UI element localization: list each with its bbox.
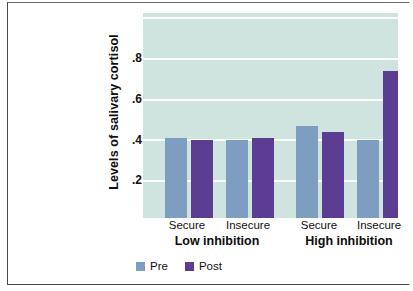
y-tick-label-06: .6: [122, 92, 142, 106]
chart-legend: Pre Post: [136, 258, 222, 274]
plot-area: [143, 13, 398, 218]
group-label-high-inhibition: High inhibition: [305, 234, 392, 248]
category-label-low-secure: Secure: [169, 219, 205, 231]
legend-label-pre: Pre: [150, 260, 168, 272]
bar-low-insecure-pre: [226, 140, 248, 218]
chart-figure: Levels of salivary cortisol .8 .6 .4 .2 …: [0, 0, 413, 291]
gridline-09: [143, 17, 398, 19]
legend-swatch-pre-icon: [136, 262, 145, 271]
category-label-high-secure: Secure: [301, 219, 337, 231]
bar-low-insecure-post: [252, 138, 274, 218]
y-tick-label-04: .4: [122, 133, 142, 147]
gridline-06: [143, 99, 398, 101]
bar-low-secure-post: [191, 140, 213, 218]
category-label-low-insecure: Insecure: [226, 219, 270, 231]
x-axis-category-labels: Secure Insecure Secure Insecure: [143, 219, 398, 235]
bar-low-secure-pre: [165, 138, 187, 218]
x-axis-group-labels: Low inhibition High inhibition: [143, 234, 405, 252]
bar-high-insecure-pre: [357, 140, 379, 218]
bar-high-insecure-post: [383, 71, 398, 218]
y-axis-tick-labels: .8 .6 .4 .2: [118, 0, 142, 291]
legend-item-post: Post: [185, 260, 222, 272]
bar-high-secure-pre: [296, 126, 318, 218]
gridline-08: [143, 58, 398, 60]
legend-label-post: Post: [199, 260, 222, 272]
group-label-low-inhibition: Low inhibition: [175, 234, 260, 248]
legend-swatch-post-icon: [185, 262, 194, 271]
legend-item-pre: Pre: [136, 260, 168, 272]
y-tick-label-08: .8: [122, 51, 142, 65]
category-label-high-insecure: Insecure: [357, 219, 401, 231]
bar-high-secure-post: [322, 132, 344, 218]
y-tick-label-02: .2: [122, 173, 142, 187]
